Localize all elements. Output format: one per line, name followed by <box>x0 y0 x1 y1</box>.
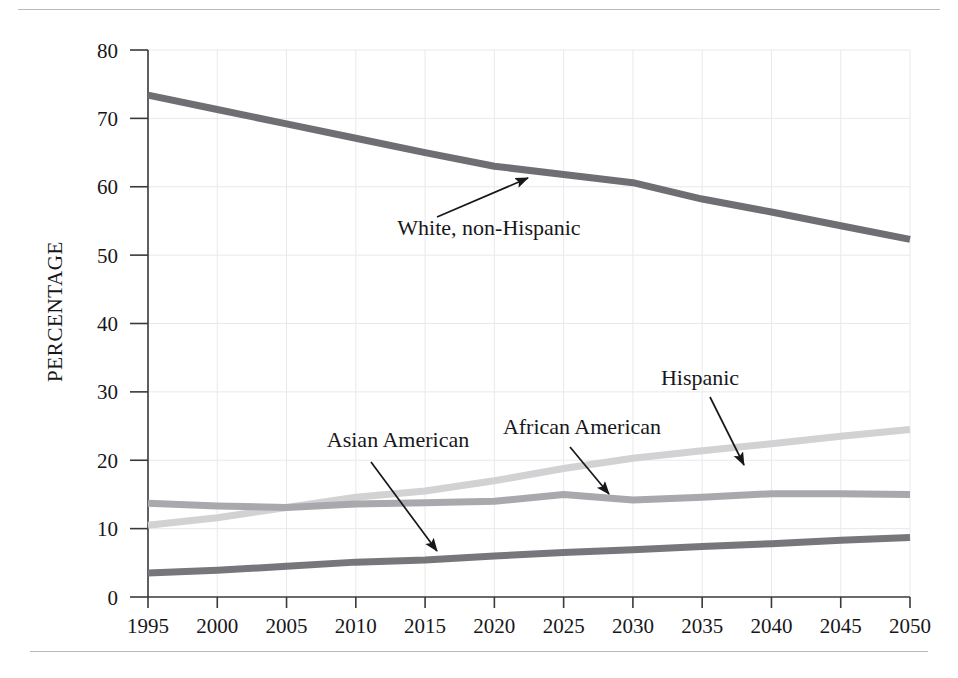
annotation-arrow-hispanic <box>710 397 744 465</box>
data-series <box>148 95 910 573</box>
y-tick-labels: 01020304050607080 <box>97 39 118 610</box>
series-line-hispanic <box>148 429 910 525</box>
x-tick-label: 1995 <box>127 614 169 638</box>
x-tick-label: 2005 <box>266 614 308 638</box>
x-tick-label: 2035 <box>681 614 723 638</box>
x-tick-label: 2030 <box>612 614 654 638</box>
y-tick-label: 40 <box>97 312 118 336</box>
y-tick-label: 70 <box>97 107 118 131</box>
x-tick-label: 2045 <box>820 614 862 638</box>
x-tick-labels: 1995200020052010201520202025203020352040… <box>127 614 931 638</box>
series-line-asian-american <box>148 538 910 574</box>
y-tick-label: 50 <box>97 244 118 268</box>
series-line-african-american <box>148 494 910 508</box>
x-tick-label: 2025 <box>543 614 585 638</box>
y-tick-label: 20 <box>97 449 118 473</box>
axis-ticks <box>130 50 910 608</box>
annotation-arrow-white-non-hispanic <box>437 178 528 217</box>
annotation-label-african-american: African American <box>503 414 661 439</box>
y-axis-title: PERCENTAGE <box>43 241 67 382</box>
y-tick-label: 30 <box>97 380 118 404</box>
x-tick-label: 2040 <box>750 614 792 638</box>
line-chart-figure: 01020304050607080 1995200020052010201520… <box>0 0 958 678</box>
x-tick-label: 2050 <box>889 614 931 638</box>
y-tick-label: 10 <box>97 517 118 541</box>
annotation-arrow-african-american <box>570 447 609 494</box>
annotation-label-asian-american: Asian American <box>327 427 469 452</box>
chart-canvas: 01020304050607080 1995200020052010201520… <box>0 0 958 678</box>
x-tick-label: 2010 <box>335 614 377 638</box>
y-tick-label: 0 <box>108 586 119 610</box>
y-axis-title-text: PERCENTAGE <box>43 241 67 382</box>
y-tick-label: 60 <box>97 175 118 199</box>
x-tick-label: 2020 <box>473 614 515 638</box>
gridlines <box>148 50 910 597</box>
x-tick-label: 2015 <box>404 614 446 638</box>
annotation-label-white-non-hispanic: White, non-Hispanic <box>397 215 581 240</box>
figure-page: 01020304050607080 1995200020052010201520… <box>0 0 958 678</box>
x-tick-label: 2000 <box>196 614 238 638</box>
y-tick-label: 80 <box>97 39 118 63</box>
annotation-label-hispanic: Hispanic <box>661 365 739 390</box>
